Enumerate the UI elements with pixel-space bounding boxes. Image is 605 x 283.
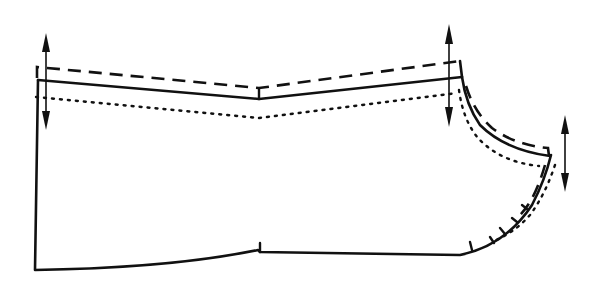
- arrow-up-icon: [445, 24, 453, 44]
- stitch-marks: [490, 205, 527, 243]
- arrow-down-icon: [42, 111, 50, 130]
- pattern-outline-dashed: [37, 61, 549, 215]
- pattern-diagram: [0, 0, 605, 283]
- arrow-down-icon: [445, 107, 453, 127]
- arrow-up-icon: [42, 33, 50, 52]
- arrow-down-icon: [561, 173, 569, 192]
- center-grain-adjust-arrow: [445, 24, 453, 127]
- pattern-outline-solid: [35, 61, 551, 270]
- right-grain-adjust-arrow: [561, 115, 569, 192]
- arrow-up-icon: [561, 115, 569, 134]
- bottom-right-notch: [470, 242, 472, 250]
